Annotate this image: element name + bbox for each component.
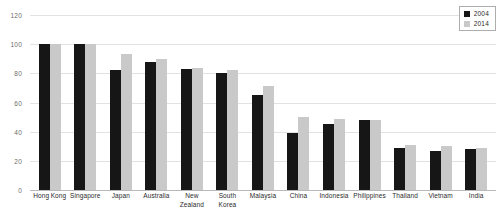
bar-group [352,15,388,190]
bar [465,149,476,190]
bar [74,44,85,190]
x-axis-tick-label: South Korea [210,192,246,224]
bar [394,148,405,190]
bar [441,146,452,190]
x-axis-tick-label: New Zealand [174,192,210,224]
x-axis-tick-label: India [458,192,494,224]
y-axis-tick-label: 60 [14,99,22,106]
gridline [30,190,496,191]
x-axis-tick-label: Singapore [68,192,104,224]
bar [85,44,96,190]
bar [121,54,132,190]
bar-chart: 020406080100120 Hong KongSingaporeJapanA… [0,0,502,224]
legend-item[interactable]: 2014 [464,20,489,27]
y-axis-tick-label: 0 [18,187,22,194]
bar [476,148,487,190]
bar [181,69,192,190]
chart-legend: 20042014 [459,6,496,31]
bar-group [387,15,423,190]
bar [252,95,263,190]
legend-item-label: 2014 [474,20,489,27]
bar [110,70,121,190]
bar [145,62,156,190]
legend-swatch-icon [464,21,470,27]
bar-group [139,15,175,190]
bar [405,145,416,190]
x-axis-tick-label: Japan [103,192,139,224]
bar [50,44,61,190]
bar [287,133,298,190]
bar [430,151,441,190]
bar [334,119,345,190]
bar [156,59,167,190]
bar-group [316,15,352,190]
bar [216,73,227,190]
x-axis-tick-label: China [281,192,317,224]
bar [359,120,370,190]
y-axis-tick-label: 120 [11,12,22,19]
bar-group [210,15,246,190]
x-axis-tick-label: Indonesia [316,192,352,224]
y-axis-tick-label: 20 [14,157,22,164]
x-axis: Hong KongSingaporeJapanAustraliaNew Zeal… [30,192,496,224]
bar [39,44,50,190]
bar-groups [30,15,496,190]
bar [227,70,238,190]
legend-item-label: 2004 [474,10,489,17]
bar-group [281,15,317,190]
bar [370,120,381,190]
x-axis-tick-label: Philippines [352,192,388,224]
x-axis-tick-label: Australia [139,192,175,224]
bar [263,86,274,190]
y-axis-tick-label: 40 [14,128,22,135]
y-axis-tick-label: 100 [11,41,22,48]
bar-group [103,15,139,190]
legend-item[interactable]: 2004 [464,10,489,17]
legend-swatch-icon [464,11,470,17]
bar-group [68,15,104,190]
x-axis-tick-label: Hong Kong [32,192,68,224]
bar-group [423,15,459,190]
bar [192,68,203,191]
x-axis-tick-label: Malaysia [245,192,281,224]
y-axis-tick-label: 80 [14,70,22,77]
x-axis-tick-label: Thailand [387,192,423,224]
bar-group [174,15,210,190]
bar-group [32,15,68,190]
plot-area [30,15,496,190]
bar-group [458,15,494,190]
bar [323,124,334,190]
x-axis-tick-label: Vietnam [423,192,459,224]
bar-group [245,15,281,190]
y-axis: 020406080100120 [0,15,26,190]
bar [298,117,309,190]
